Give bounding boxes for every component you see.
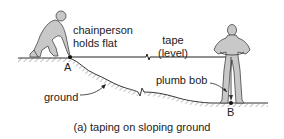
plumb-bob-label: plumb bob <box>156 74 207 86</box>
ground-label: ground <box>44 91 78 103</box>
tape-label-line1: tape <box>155 34 191 46</box>
point-a-label: A <box>64 61 71 73</box>
rear-person-figure <box>214 25 250 104</box>
ground-break-icon <box>138 88 144 96</box>
chainperson-label-line1: chainperson <box>73 24 133 36</box>
tape-line <box>70 54 232 60</box>
tape-break-icon <box>146 54 150 60</box>
ground-leader <box>80 86 104 95</box>
point-b-marker <box>229 101 233 105</box>
tape-label-line2: (level) <box>152 47 194 59</box>
left-ground <box>18 58 70 62</box>
taping-diagram: chainperson holds flat tape (level) plum… <box>0 0 284 139</box>
figure-caption: (a) taping on sloping ground <box>0 121 284 133</box>
diagram-canvas <box>0 0 284 139</box>
chainperson-figure <box>30 11 70 57</box>
chainperson-label-line2: holds flat <box>73 37 117 49</box>
point-b-label: B <box>227 106 234 118</box>
